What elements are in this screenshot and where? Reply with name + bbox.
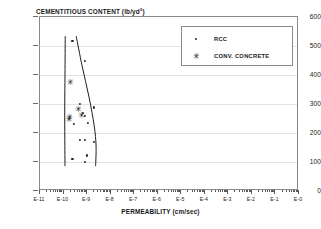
y-tick-mark: [33, 16, 38, 17]
legend-label-rcc: RCC: [214, 36, 227, 42]
x-minor-tick: [79, 190, 80, 192]
x-minor-tick: [168, 190, 169, 192]
x-minor-tick: [234, 190, 235, 192]
x-minor-tick: [140, 190, 141, 192]
x-minor-tick: [192, 190, 193, 192]
x-tick-label: E-4: [193, 196, 215, 202]
x-minor-tick: [147, 190, 148, 192]
y-axis-title: CEMENTITIOUS CONTENT (lb/yd3): [36, 7, 145, 15]
y-tick-mark: [33, 74, 38, 75]
data-point-conv-concrete: ✳: [65, 115, 72, 124]
y-tick-mark: [33, 190, 38, 191]
x-minor-tick: [204, 190, 205, 194]
x-minor-tick: [298, 190, 299, 194]
x-minor-tick: [144, 190, 145, 192]
x-minor-tick: [239, 190, 240, 192]
x-minor-tick: [63, 190, 64, 194]
x-tick-label: E-11: [28, 196, 50, 202]
y-tick-label: 200: [299, 129, 321, 136]
y-tick-mark: [33, 161, 38, 162]
x-minor-tick: [121, 190, 122, 192]
x-minor-tick: [194, 190, 195, 192]
y-tick-label: 300: [299, 100, 321, 107]
y-tick-label: 0: [299, 187, 321, 194]
x-minor-tick: [86, 190, 87, 194]
y-tick-mark: [33, 132, 38, 133]
x-minor-tick: [242, 190, 243, 192]
legend-label-conv-concrete: CONV. CONCRETE: [214, 53, 269, 59]
x-tick-label: E-6: [146, 196, 168, 202]
x-minor-tick: [289, 190, 290, 192]
legend-item-conv-concrete: ✳ CONV. CONCRETE: [182, 48, 292, 64]
x-minor-tick: [124, 190, 125, 192]
x-tick-label: E-2: [240, 196, 262, 202]
x-minor-tick: [50, 190, 51, 192]
x-axis-title: PERMEABILITY (cm/sec): [0, 208, 321, 215]
x-minor-tick: [39, 190, 40, 194]
x-minor-tick: [70, 190, 71, 192]
x-minor-tick: [97, 190, 98, 192]
x-minor-tick: [244, 190, 245, 192]
x-minor-tick: [100, 190, 101, 192]
x-minor-tick: [126, 190, 127, 192]
x-minor-tick: [218, 190, 219, 192]
x-minor-tick: [220, 190, 221, 192]
x-minor-tick: [77, 190, 78, 192]
x-minor-tick: [110, 190, 111, 194]
y-axis-title-text: CEMENTITIOUS CONTENT (lb/yd: [36, 8, 140, 15]
x-minor-tick: [215, 190, 216, 192]
x-minor-tick: [282, 190, 283, 192]
x-minor-tick: [117, 190, 118, 192]
x-minor-tick: [150, 190, 151, 192]
x-minor-tick: [251, 190, 252, 194]
x-tick-label: E-0: [287, 196, 309, 202]
x-tick-label: E-5: [169, 196, 191, 202]
x-minor-tick: [187, 190, 188, 192]
y-tick-mark: [33, 103, 38, 104]
x-minor-tick: [133, 190, 134, 194]
x-minor-tick: [258, 190, 259, 192]
chart-figure: CEMENTITIOUS CONTENT (lb/yd3) 0100200300…: [0, 0, 321, 229]
y-tick-label: 500: [299, 42, 321, 49]
x-tick-label: E-10: [52, 196, 74, 202]
x-tick-label: E-3: [216, 196, 238, 202]
x-minor-tick: [197, 190, 198, 192]
x-minor-tick: [171, 190, 172, 192]
x-tick-label: E-7: [122, 196, 144, 202]
x-minor-tick: [211, 190, 212, 192]
x-minor-tick: [227, 190, 228, 194]
x-minor-tick: [55, 190, 56, 192]
envelope-curve: [76, 36, 96, 166]
x-minor-tick: [173, 190, 174, 192]
x-minor-tick: [265, 190, 266, 192]
chart-legend: RCC ✳ CONV. CONCRETE: [181, 26, 293, 66]
y-tick-label: 400: [299, 71, 321, 78]
x-minor-tick: [93, 190, 94, 192]
data-point-conv-concrete: ✳: [67, 78, 74, 87]
x-minor-tick: [286, 190, 287, 192]
x-minor-tick: [53, 190, 54, 192]
x-minor-tick: [157, 190, 158, 194]
y-tick-mark: [33, 45, 38, 46]
x-minor-tick: [267, 190, 268, 192]
data-point-conv-concrete: ✳: [78, 111, 85, 120]
y-tick-label: 600: [299, 13, 321, 20]
x-minor-tick: [291, 190, 292, 192]
x-minor-tick: [262, 190, 263, 192]
x-minor-tick: [180, 190, 181, 194]
x-tick-label: E-1: [263, 196, 285, 202]
legend-asterisk-icon: ✳: [192, 52, 199, 61]
y-axis-title-suffix: ): [142, 8, 144, 15]
x-tick-label: E-9: [75, 196, 97, 202]
x-tick-label: E-8: [99, 196, 121, 202]
x-minor-tick: [74, 190, 75, 192]
x-minor-tick: [164, 190, 165, 192]
x-minor-tick: [274, 190, 275, 194]
y-tick-label: 100: [299, 158, 321, 165]
x-minor-tick: [46, 190, 47, 192]
legend-item-rcc: RCC: [182, 31, 292, 47]
legend-dot-icon: [195, 38, 197, 40]
x-minor-tick: [103, 190, 104, 192]
